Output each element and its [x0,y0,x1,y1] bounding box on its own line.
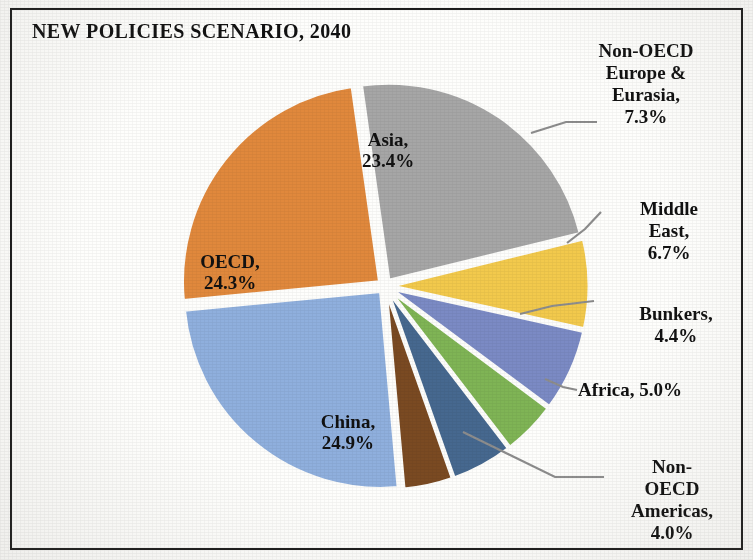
pie-label-non-oecd-europe-eurasia: Non-OECD Europe & Eurasia, 7.3% [598,40,693,128]
chart-title: NEW POLICIES SCENARIO, 2040 [32,20,351,43]
pie-label-oecd: OECD, 24.3% [200,251,260,294]
pie-label-asia: Asia, 23.4% [362,129,414,172]
leader-line-non-oecd-europe-eurasia [531,122,597,133]
pie-label-africa: Africa, 5.0% [578,379,682,401]
pie-label-middle-east: Middle East, 6.7% [627,198,711,264]
pie-chart-figure: NEW POLICIES SCENARIO, 2040 Asia, 23.4% … [0,0,753,560]
pie-label-non-oecd-americas: Non-OECD Americas, 4.0% [631,456,713,544]
pie-slice-china [184,291,398,488]
pie-label-bunkers: Bunkers, 4.4% [639,303,712,347]
pie-label-china: China, 24.9% [321,411,375,454]
